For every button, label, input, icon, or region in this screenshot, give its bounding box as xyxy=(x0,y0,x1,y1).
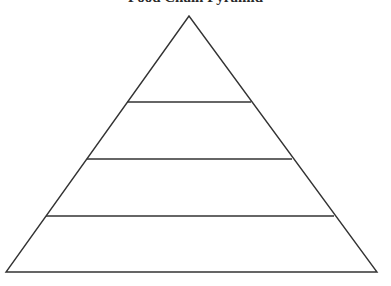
pyramid-diagram xyxy=(0,0,391,286)
pyramid-outline xyxy=(6,16,377,272)
